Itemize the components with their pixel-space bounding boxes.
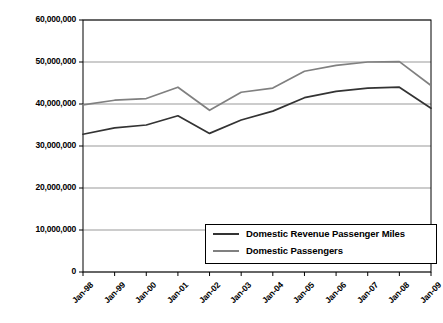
line-chart: 010,000,00020,000,00030,000,00040,000,00…: [0, 0, 443, 323]
y-axis-tick-label: 50,000,000: [35, 56, 76, 66]
chart-plot-area: [0, 0, 443, 323]
y-axis-tick-label: 30,000,000: [35, 140, 76, 150]
y-axis-tick-label: 0: [71, 266, 76, 276]
y-axis-tick-label: 60,000,000: [35, 14, 76, 24]
legend-label-passengers: Domestic Passengers: [246, 245, 343, 256]
legend-swatch-rpm: [213, 233, 239, 235]
series-line-0: [83, 87, 431, 134]
y-axis-tick-label: 40,000,000: [35, 98, 76, 108]
series-line-1: [83, 62, 431, 111]
legend-label-rpm: Domestic Revenue Passenger Miles: [246, 228, 405, 239]
legend-item-rpm: Domestic Revenue Passenger Miles: [206, 225, 436, 242]
y-axis-tick-label: 20,000,000: [35, 182, 76, 192]
legend-swatch-passengers: [213, 250, 239, 252]
legend-item-passengers: Domestic Passengers: [206, 242, 436, 259]
chart-legend: Domestic Revenue Passenger Miles Domesti…: [205, 224, 437, 264]
y-axis-tick-label: 10,000,000: [35, 224, 76, 234]
